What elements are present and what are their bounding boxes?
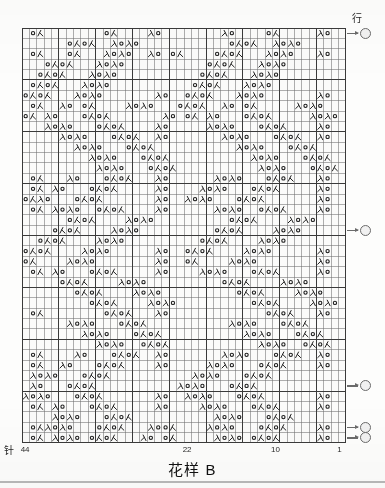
row-marker-40[interactable] — [360, 28, 371, 39]
stitch-axis-label: 针 — [4, 446, 14, 456]
row-marker-21[interactable] — [360, 225, 371, 236]
row-marker-arrow-40 — [347, 33, 358, 34]
chart-grid — [22, 28, 346, 443]
chart-title: 花样 B — [0, 458, 385, 479]
column-number-44: 44 — [21, 445, 30, 454]
row-marker-2[interactable] — [360, 422, 371, 433]
chart-grid-svg — [22, 28, 346, 443]
row-marker-arrow-21 — [347, 230, 358, 231]
row-marker-6[interactable] — [360, 380, 371, 391]
knitting-chart-pattern-b: 行 针 4422101 花样 B — [0, 0, 385, 488]
row-marker-arrow-2 — [347, 427, 358, 428]
column-number-1: 1 — [337, 445, 341, 454]
column-number-22: 22 — [183, 445, 192, 454]
row-marker-arrow-6 — [347, 385, 358, 386]
column-number-10: 10 — [271, 445, 280, 454]
row-marker-1[interactable] — [360, 432, 371, 443]
row-axis-label: 行 — [352, 14, 362, 24]
row-marker-arrow-1 — [347, 437, 358, 438]
bottom-divider — [0, 481, 385, 483]
